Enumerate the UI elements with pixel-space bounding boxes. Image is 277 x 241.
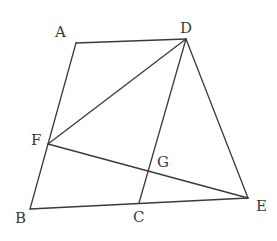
segment-ad (76, 39, 186, 43)
point-label-b: B (15, 211, 26, 226)
point-label-a: A (55, 25, 66, 40)
diagram-lines (0, 0, 277, 241)
segment-ab (30, 43, 76, 209)
point-label-e: E (256, 199, 267, 214)
geometry-figure: A D F B C G E (0, 0, 277, 241)
segment-df (48, 39, 186, 144)
point-label-g: G (157, 155, 169, 170)
point-label-d: D (180, 21, 192, 36)
segment-de (186, 39, 248, 198)
point-label-c: C (133, 210, 144, 225)
segment-dc (139, 39, 186, 203)
segment-fe (48, 144, 248, 198)
point-label-f: F (31, 133, 41, 148)
